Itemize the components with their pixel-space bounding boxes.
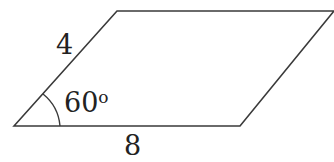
parallelogram-diagram: 4 60o 8 [0, 0, 334, 162]
side-label-base: 8 [124, 130, 141, 161]
angle-arc [43, 94, 60, 126]
angle-label: 60o [64, 87, 109, 118]
angle-value: 60 [64, 87, 98, 118]
side-label-slanted: 4 [56, 29, 73, 60]
degree-symbol: o [98, 87, 108, 107]
